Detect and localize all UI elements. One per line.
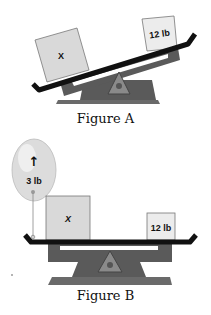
pivot-pin-b [107, 262, 113, 268]
scale-frame-slot-b [60, 246, 158, 250]
caption-figure-a: Figure A [0, 111, 211, 126]
pivot-pin-a [116, 83, 122, 89]
stray-dot [11, 274, 13, 276]
diagram-canvas: X 12 lb ↑ 3 lb X 12 lb [0, 0, 211, 315]
box-x-label-b: X [64, 214, 72, 224]
scale-base-a [56, 100, 160, 104]
up-arrow-icon: ↑ [29, 154, 40, 169]
figure-a: X 12 lb [33, 16, 195, 104]
scale-base-b [48, 277, 172, 285]
box-x-label-a: X [58, 51, 64, 61]
box-12lb-label-b: 12 lb [151, 223, 172, 233]
balloon-label: 3 lb [26, 176, 42, 186]
figure-b: ↑ 3 lb X 12 lb [11, 139, 196, 285]
caption-figure-b: Figure B [0, 288, 211, 303]
